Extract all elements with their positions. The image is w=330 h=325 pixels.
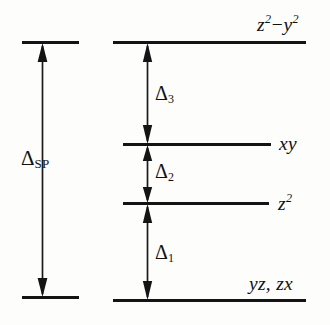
level-label-z2-sup: 2 <box>286 191 292 205</box>
energy-level-diagram: ΔSP Δ3 Δ2 Δ1 z2−y2 xy z2 yz, zx <box>0 0 330 325</box>
delta-1-symbol: Δ <box>155 241 168 263</box>
level-label-comma: , <box>266 273 276 294</box>
level-label-z2-y2-minus: − <box>271 14 283 35</box>
level-label-yz-zx: yz, zx <box>249 274 293 294</box>
delta-2-symbol: Δ <box>155 160 168 182</box>
gap-arrow-delta-2 <box>143 145 152 203</box>
reference-column-group <box>22 43 79 298</box>
level-label-yz: yz <box>249 273 266 294</box>
delta-sp-label: ΔSP <box>21 148 50 170</box>
delta-3-label: Δ3 <box>155 83 174 105</box>
gap-arrow-delta-3 <box>143 43 152 144</box>
level-label-z2-y2-base1: z <box>257 14 265 35</box>
level-label-z2-base: z <box>278 193 286 214</box>
delta-sp-arrowhead-up <box>38 43 48 62</box>
delta-1-arrowhead-up <box>143 204 152 223</box>
delta-2-arrowhead-up <box>143 145 152 161</box>
level-label-xy-text: xy <box>279 133 297 154</box>
delta-1-arrowhead-down <box>143 281 152 300</box>
delta-3-arrowhead-down <box>143 125 152 144</box>
level-label-zx: zx <box>276 273 293 294</box>
delta-3-subscript: 3 <box>168 92 174 106</box>
delta-2-label: Δ2 <box>155 161 174 183</box>
delta-2-subscript: 2 <box>168 170 174 184</box>
delta-sp-symbol: Δ <box>21 146 35 170</box>
delta-2-arrowhead-down <box>143 187 152 203</box>
delta-3-symbol: Δ <box>155 82 168 104</box>
level-label-z2-y2-sup2: 2 <box>293 12 299 26</box>
delta-3-arrowhead-up <box>143 43 152 62</box>
delta-sp-subscript: SP <box>35 156 50 171</box>
gap-arrow-delta-1 <box>143 204 152 300</box>
level-label-z2-y2: z2−y2 <box>257 13 299 34</box>
level-label-z2-y2-base2: y <box>284 14 293 35</box>
delta-1-subscript: 1 <box>168 251 174 265</box>
level-label-xy: xy <box>279 134 297 154</box>
delta-sp-arrowhead-down <box>38 278 48 297</box>
delta-1-label: Δ1 <box>155 242 174 264</box>
level-label-z2: z2 <box>278 192 292 213</box>
level-column-group <box>113 43 306 301</box>
